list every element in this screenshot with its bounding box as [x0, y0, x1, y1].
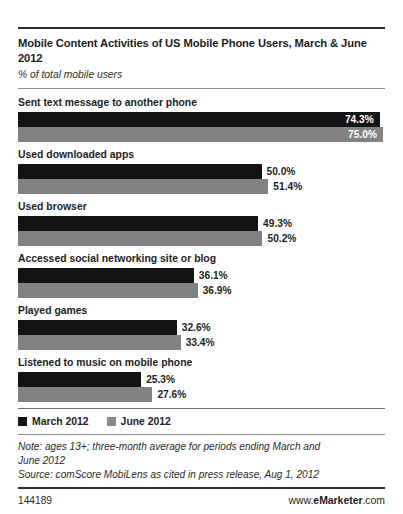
- chart-sheet: Mobile Content Activities of US Mobile P…: [0, 0, 403, 514]
- bar-march-2012: [18, 164, 262, 179]
- bar-march-2012: [18, 268, 194, 283]
- bar-row: 74.3%: [18, 112, 385, 127]
- bar-value-label: 33.4%: [181, 335, 215, 350]
- bar-chart: Sent text message to another phone74.3%7…: [18, 89, 385, 402]
- bar-june-2012: [18, 283, 198, 298]
- bar-group: Accessed social networking site or blog3…: [18, 252, 385, 298]
- bar-row: 51.4%: [18, 179, 385, 194]
- source-line: Source: comScore MobiLens as cited in pr…: [18, 468, 385, 482]
- category-label: Used downloaded apps: [18, 148, 385, 162]
- bar-march-2012: [18, 216, 258, 231]
- chart-id: 144189: [18, 495, 52, 506]
- bar-row: 50.0%: [18, 164, 385, 179]
- note-line-2: June 2012: [18, 454, 385, 468]
- bar-june-2012: [18, 179, 268, 194]
- bar-march-2012: [18, 320, 177, 335]
- url-brand: eMarketer: [313, 495, 362, 506]
- category-label: Used browser: [18, 200, 385, 214]
- legend-label: June 2012: [121, 416, 171, 427]
- bar-june-2012: 75.0%: [18, 127, 383, 142]
- legend-item: June 2012: [107, 416, 171, 427]
- bar-value-label: 74.3%: [345, 114, 380, 125]
- bar-june-2012: [18, 335, 181, 350]
- bar-value-label: 50.0%: [262, 164, 296, 179]
- bar-value-label: 50.2%: [262, 231, 296, 246]
- bar-row: 49.3%: [18, 216, 385, 231]
- bar-row: 33.4%: [18, 335, 385, 350]
- bar-value-label: 36.1%: [194, 268, 228, 283]
- category-label: Played games: [18, 304, 385, 318]
- bar-value-label: 49.3%: [258, 216, 292, 231]
- bar-value-label: 75.0%: [348, 129, 383, 140]
- bar-row: 25.3%: [18, 372, 385, 387]
- bar-row: 27.6%: [18, 387, 385, 402]
- bar-group: Sent text message to another phone74.3%7…: [18, 96, 385, 142]
- chart-notes: Note: ages 13+; three-month average for …: [18, 435, 385, 487]
- bar-row: 36.1%: [18, 268, 385, 283]
- legend-item: March 2012: [18, 416, 89, 427]
- bar-group: Used browser49.3%50.2%: [18, 200, 385, 246]
- category-label: Accessed social networking site or blog: [18, 252, 385, 266]
- legend-label: March 2012: [32, 416, 89, 427]
- bar-june-2012: [18, 387, 152, 402]
- category-label: Listened to music on mobile phone: [18, 356, 385, 370]
- bar-row: 36.9%: [18, 283, 385, 298]
- bar-value-label: 32.6%: [177, 320, 211, 335]
- url-suffix: .com: [362, 495, 385, 506]
- bar-group: Played games32.6%33.4%: [18, 304, 385, 350]
- legend-swatch-icon: [107, 417, 116, 426]
- bar-group: Listened to music on mobile phone25.3%27…: [18, 356, 385, 402]
- bar-group: Used downloaded apps50.0%51.4%: [18, 148, 385, 194]
- bar-value-label: 36.9%: [198, 283, 232, 298]
- bar-march-2012: [18, 372, 141, 387]
- bar-june-2012: [18, 231, 262, 246]
- page-subtitle: % of total mobile users: [18, 65, 385, 88]
- bar-row: 50.2%: [18, 231, 385, 246]
- bar-value-label: 25.3%: [141, 372, 175, 387]
- note-line-1: Note: ages 13+; three-month average for …: [18, 440, 385, 454]
- chart-legend: March 2012June 2012: [18, 409, 385, 434]
- footer: 144189 www.eMarketer.com: [18, 489, 385, 506]
- bar-march-2012: 74.3%: [18, 112, 380, 127]
- bar-row: 32.6%: [18, 320, 385, 335]
- category-label: Sent text message to another phone: [18, 96, 385, 110]
- url-prefix: www.: [289, 495, 314, 506]
- bar-value-label: 51.4%: [268, 179, 302, 194]
- bar-row: 75.0%: [18, 127, 385, 142]
- bar-value-label: 27.6%: [152, 387, 186, 402]
- legend-swatch-icon: [18, 417, 27, 426]
- emarketer-url: www.eMarketer.com: [289, 495, 385, 506]
- page-title: Mobile Content Activities of US Mobile P…: [18, 29, 385, 65]
